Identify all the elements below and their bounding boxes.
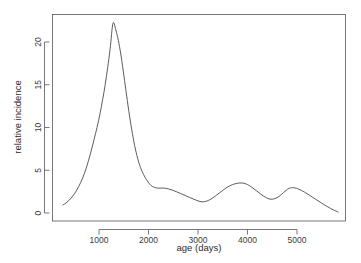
incidence-vs-age-line-chart: 05101520 10002000300040005000 age (days)…: [0, 0, 361, 263]
y-tick-label: 20: [33, 37, 43, 47]
y-tick-label: 5: [33, 168, 43, 173]
y-axis-title: relative incidence: [12, 80, 23, 153]
x-tick-label: 4000: [238, 235, 257, 245]
chart-figure: 05101520 10002000300040005000 age (days)…: [0, 0, 361, 263]
chart-background: [0, 0, 361, 263]
y-tick-label: 10: [33, 123, 43, 133]
x-axis-title: age (days): [177, 242, 222, 253]
x-tick-label: 2000: [139, 235, 158, 245]
y-tick-label: 15: [33, 80, 43, 90]
y-tick-label: 0: [33, 210, 43, 215]
x-tick-label: 5000: [288, 235, 307, 245]
x-tick-label: 1000: [90, 235, 109, 245]
